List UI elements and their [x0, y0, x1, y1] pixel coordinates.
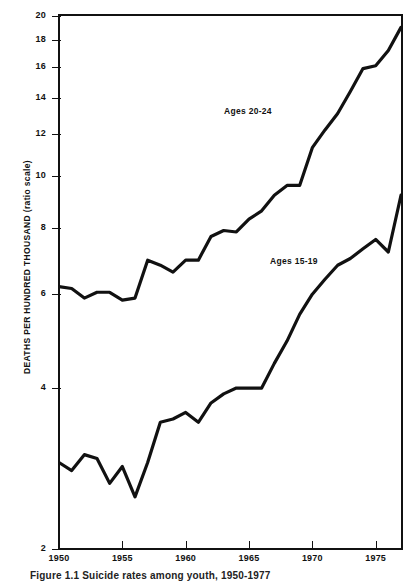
x-tick-label-1955: 1955: [99, 553, 145, 563]
y-tick-label-10: 10: [12, 170, 46, 180]
y-tick-label-18: 18: [12, 34, 46, 44]
plot-canvas: [58, 14, 403, 550]
series-label-ages-20-24: Ages 20-24: [224, 106, 272, 116]
x-tick-label-1975: 1975: [353, 553, 399, 563]
y-tick-label-8: 8: [12, 222, 46, 232]
x-tick-label-1970: 1970: [289, 553, 335, 563]
figure-caption: Figure 1.1 Suicide rates among youth, 19…: [30, 570, 418, 581]
y-tick-label-12: 12: [12, 128, 46, 138]
series-label-ages-15-19: Ages 15-19: [270, 256, 318, 266]
y-tick-label-6: 6: [12, 288, 46, 298]
x-tick-label-1965: 1965: [226, 553, 272, 563]
x-tick-label-1960: 1960: [163, 553, 209, 563]
y-tick-label-20: 20: [12, 10, 46, 20]
y-tick-label-14: 14: [12, 92, 46, 102]
y-axis-title-note: (ratio scale): [22, 160, 32, 212]
series-line-ages-15-19: [59, 195, 401, 497]
y-tick-label-2: 2: [12, 543, 46, 553]
series-lines: [58, 14, 403, 550]
y-tick-label-4: 4: [12, 382, 46, 392]
y-axis-title: DEATHS PER HUNDRED THOUSAND (ratio scale…: [22, 122, 32, 412]
y-tick-label-16: 16: [12, 61, 46, 71]
x-tick-label-1950: 1950: [36, 553, 82, 563]
